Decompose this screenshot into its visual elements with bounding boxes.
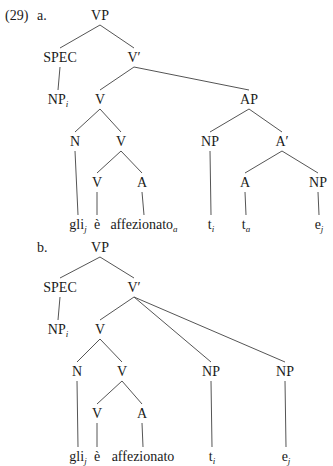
tree-edge	[245, 192, 246, 215]
node-label: NP	[202, 364, 220, 379]
tree-node-v2: V	[117, 365, 127, 379]
tree-node-gli: glij	[69, 450, 86, 464]
tree-node-e_acc: è	[94, 218, 100, 232]
node-label: A	[137, 406, 147, 421]
tree-node-abar: A′	[275, 135, 288, 149]
tree-edge	[142, 423, 143, 447]
tree-node-npi: NPi	[48, 93, 68, 107]
tree-node-ti: ti	[208, 218, 214, 232]
tree-edge	[77, 339, 100, 362]
tree-edge	[58, 297, 60, 320]
tree-node-a1: A	[137, 176, 147, 190]
node-index: i	[212, 224, 215, 234]
node-label: è	[94, 449, 100, 464]
tree-node-spec: SPEC	[43, 281, 76, 295]
tree-edge	[100, 297, 134, 320]
tree-node-npi: NPi	[48, 323, 68, 337]
node-label: V′	[127, 280, 140, 295]
node-label: affezionato	[110, 217, 173, 232]
tree-edge	[134, 297, 211, 362]
tree-edge	[211, 381, 212, 447]
tree-node-ti: ti	[209, 450, 215, 464]
node-index: i	[213, 456, 216, 466]
tree-node-ap: AP	[240, 93, 258, 107]
tree-node-n: N	[72, 365, 82, 379]
tree-edges	[0, 0, 333, 466]
tree-edge	[100, 25, 134, 48]
tree-edge	[245, 151, 282, 173]
tree-edge	[318, 192, 319, 215]
node-label: A	[240, 175, 250, 190]
tree-edge	[134, 297, 285, 362]
tree-node-a1: A	[137, 407, 147, 421]
node-label: N	[70, 134, 80, 149]
tree-edge	[142, 192, 144, 215]
tree-node-vp: VP	[91, 9, 109, 23]
tree-node-v1: V	[95, 323, 105, 337]
node-label: gli	[69, 217, 84, 232]
tree-node-ej: ej	[282, 450, 291, 464]
tree-node-vp: VP	[91, 241, 109, 255]
tree-node-v3: V	[92, 176, 102, 190]
tree-node-ta: ta	[242, 218, 250, 232]
tree-node-vbar: V′	[127, 281, 140, 295]
node-label: A	[137, 175, 147, 190]
tree-node-spec: SPEC	[43, 51, 76, 65]
tree-edge	[210, 151, 211, 215]
tree-edge	[58, 67, 60, 90]
node-index: j	[84, 456, 87, 466]
tree-node-affez: affezionatoa	[110, 218, 177, 232]
node-label: AP	[240, 92, 258, 107]
tree-edge	[210, 109, 249, 132]
tree-node-v3: V	[92, 407, 102, 421]
tree-node-affez: affezionato	[112, 450, 175, 464]
tree-node-e_acc: è	[94, 450, 100, 464]
node-label: V	[92, 175, 102, 190]
node-label: V′	[127, 50, 140, 65]
tree-node-np1: NP	[201, 135, 219, 149]
tree-edge	[97, 151, 121, 173]
node-label: NP	[48, 92, 66, 107]
tree-edge	[249, 109, 282, 132]
node-label: V	[116, 134, 126, 149]
node-label: è	[94, 217, 100, 232]
node-label: V	[95, 92, 105, 107]
node-label: VP	[91, 8, 109, 23]
node-index: a	[246, 224, 251, 234]
tree-edge	[121, 151, 142, 173]
node-label: NP	[276, 364, 294, 379]
node-index: j	[321, 224, 324, 234]
node-label: affezionato	[112, 449, 175, 464]
node-index: i	[66, 329, 69, 339]
node-label: NP	[309, 175, 327, 190]
node-label: NP	[201, 134, 219, 149]
tree-node-np2: NP	[276, 365, 294, 379]
tree-edge	[60, 257, 100, 278]
tree-edge	[100, 257, 134, 278]
tree-edge	[134, 67, 249, 90]
node-label: NP	[48, 322, 66, 337]
tree-edge	[97, 381, 122, 404]
tree-node-ej: ej	[315, 218, 324, 232]
tree-edge	[285, 381, 286, 447]
tree-edge	[282, 151, 318, 173]
tree-edge	[77, 381, 78, 447]
tree-node-v1: V	[95, 93, 105, 107]
node-index: j	[84, 224, 87, 234]
node-label: N	[72, 364, 82, 379]
tree-edge	[100, 67, 134, 90]
node-label: V	[95, 322, 105, 337]
tree-node-gli: glij	[69, 218, 86, 232]
tree-node-np2: NP	[309, 176, 327, 190]
node-label: V	[117, 364, 127, 379]
node-label: gli	[69, 449, 84, 464]
tree-edge	[100, 339, 122, 362]
tree-node-vbar: V′	[127, 51, 140, 65]
tree-node-np1: NP	[202, 365, 220, 379]
node-index: a	[173, 224, 178, 234]
tree-node-a2: A	[240, 176, 250, 190]
node-index: j	[288, 456, 291, 466]
node-label: A′	[275, 134, 288, 149]
tree-edge	[122, 381, 142, 404]
tree-node-n: N	[70, 135, 80, 149]
